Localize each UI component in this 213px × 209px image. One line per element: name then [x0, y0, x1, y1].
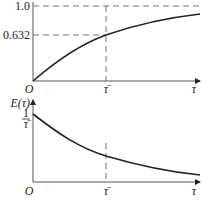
pdf-curve: [33, 114, 200, 175]
y-tick-den: τ̄: [24, 117, 31, 131]
y-tick-0632: 0.632: [3, 28, 30, 42]
x-axis-label-bottom: τ: [192, 184, 197, 198]
x-mark-taubar: τ̄: [104, 82, 111, 96]
x-mark-taubar-bottom: τ̄: [104, 184, 111, 198]
y-tick-1: 1.0: [15, 0, 30, 13]
diagram-canvas: 1.0 0.632 O τ̄ τ E(τ) 1 τ̄ O τ̄ τ: [0, 0, 213, 209]
origin-label: O: [25, 82, 34, 96]
x-axis-label: τ: [192, 82, 197, 96]
cdf-curve: [33, 14, 200, 81]
origin-label-bottom: O: [25, 184, 34, 198]
bottom-chart: E(τ) 1 τ̄ O τ̄ τ: [9, 96, 200, 198]
top-chart: 1.0 0.632 O τ̄ τ: [3, 0, 200, 96]
